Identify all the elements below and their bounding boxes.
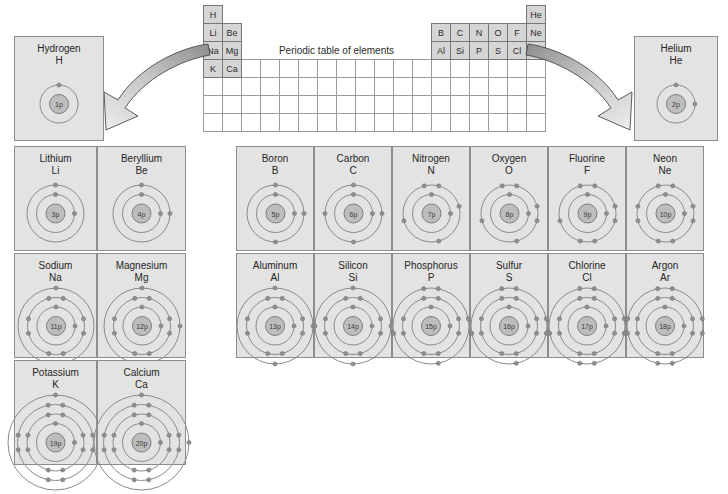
periodic-cell-empty[interactable] (242, 114, 261, 132)
periodic-cell-empty[interactable] (280, 114, 299, 132)
periodic-cell-empty[interactable] (356, 114, 375, 132)
periodic-cell-al[interactable]: Al (432, 42, 451, 60)
periodic-cell-empty[interactable] (451, 78, 470, 96)
element-card-lithium[interactable]: LithiumLi3p (14, 146, 97, 251)
periodic-cell-empty[interactable] (280, 60, 299, 78)
periodic-cell-empty[interactable] (261, 60, 280, 78)
electron (674, 82, 678, 86)
periodic-cell-empty[interactable] (489, 114, 508, 132)
periodic-cell-si[interactable]: Si (451, 42, 470, 60)
periodic-cell-empty[interactable] (451, 96, 470, 114)
element-card-magnesium[interactable]: MagnesiumMg12p (97, 253, 186, 358)
periodic-cell-be[interactable]: Be (223, 24, 242, 42)
periodic-cell-empty[interactable] (356, 96, 375, 114)
periodic-cell-empty[interactable] (242, 78, 261, 96)
periodic-cell-empty[interactable] (223, 114, 242, 132)
periodic-cell-s[interactable]: S (489, 42, 508, 60)
element-card-neon[interactable]: NeonNe10p (626, 146, 704, 251)
periodic-cell-c[interactable]: C (451, 24, 470, 42)
periodic-cell-empty[interactable] (261, 96, 280, 114)
periodic-cell-empty[interactable] (489, 96, 508, 114)
element-card-potassium[interactable]: PotassiumK19p (14, 360, 97, 465)
periodic-cell-b[interactable]: B (432, 24, 451, 42)
periodic-cell-empty[interactable] (337, 60, 356, 78)
periodic-cell-empty[interactable] (394, 60, 413, 78)
periodic-cell-empty[interactable] (451, 114, 470, 132)
periodic-cell-empty[interactable] (375, 96, 394, 114)
periodic-cell-empty[interactable] (280, 78, 299, 96)
element-card-calcium[interactable]: CalciumCa20p (97, 360, 186, 465)
periodic-cell-empty[interactable] (432, 96, 451, 114)
element-card-hydrogen[interactable]: HydrogenH1p (14, 36, 104, 141)
electron (177, 433, 181, 437)
periodic-cell-empty[interactable] (375, 114, 394, 132)
element-card-aluminum[interactable]: AluminumAl13p (236, 253, 314, 358)
element-card-silicon[interactable]: SiliconSi14p (314, 253, 392, 358)
periodic-cell-empty[interactable] (470, 96, 489, 114)
periodic-cell-empty[interactable] (318, 60, 337, 78)
periodic-cell-empty[interactable] (356, 78, 375, 96)
periodic-cell-empty[interactable] (470, 60, 489, 78)
element-card-chlorine[interactable]: ChlorineCl17p (548, 253, 626, 358)
periodic-cell-mg[interactable]: Mg (223, 42, 242, 60)
element-card-phosphorus[interactable]: PhosphorusP15p (392, 253, 470, 358)
periodic-cell-empty[interactable] (394, 114, 413, 132)
periodic-cell-empty[interactable] (299, 60, 318, 78)
periodic-cell-n[interactable]: N (470, 24, 489, 42)
electron (422, 184, 426, 188)
periodic-cell-empty[interactable] (413, 114, 432, 132)
periodic-cell-empty[interactable] (318, 96, 337, 114)
periodic-cell-empty[interactable] (413, 60, 432, 78)
periodic-cell-empty[interactable] (299, 96, 318, 114)
periodic-cell-empty[interactable] (413, 78, 432, 96)
periodic-cell-empty[interactable] (337, 96, 356, 114)
periodic-cell-empty[interactable] (223, 78, 242, 96)
periodic-cell-empty[interactable] (261, 114, 280, 132)
periodic-cell-empty[interactable] (261, 78, 280, 96)
periodic-cell-empty[interactable] (470, 114, 489, 132)
element-card-nitrogen[interactable]: NitrogenN7p (392, 146, 470, 251)
periodic-cell-empty[interactable] (432, 60, 451, 78)
periodic-cell-empty[interactable] (318, 114, 337, 132)
periodic-cell-empty[interactable] (356, 60, 375, 78)
periodic-cell-empty[interactable] (451, 60, 470, 78)
periodic-cell-empty[interactable] (318, 78, 337, 96)
element-card-sodium[interactable]: SodiumNa11p (14, 253, 97, 358)
electron (132, 413, 136, 417)
periodic-cell-empty[interactable] (432, 114, 451, 132)
periodic-cell-empty[interactable] (489, 60, 508, 78)
element-card-fluorine[interactable]: FluorineF9p (548, 146, 626, 251)
periodic-cell-empty[interactable] (375, 60, 394, 78)
element-card-beryllium[interactable]: BerylliumBe4p (97, 146, 186, 251)
periodic-cell-empty (318, 6, 337, 24)
periodic-cell-empty[interactable] (394, 96, 413, 114)
periodic-cell-empty[interactable] (394, 78, 413, 96)
periodic-cell-empty[interactable] (375, 78, 394, 96)
element-card-argon[interactable]: ArgonAr18p (626, 253, 704, 358)
electron (436, 184, 440, 188)
periodic-cell-h[interactable]: H (204, 6, 223, 24)
electron (139, 393, 143, 397)
element-card-helium[interactable]: HeliumHe2p (634, 36, 718, 141)
periodic-cell-ca[interactable]: Ca (223, 60, 242, 78)
periodic-cell-empty[interactable] (299, 114, 318, 132)
periodic-cell-empty[interactable] (242, 96, 261, 114)
periodic-cell-empty[interactable] (337, 114, 356, 132)
electron (663, 192, 667, 196)
periodic-cell-empty[interactable] (337, 78, 356, 96)
element-card-boron[interactable]: BoronB5p (236, 146, 314, 251)
element-card-sulfur[interactable]: SulfurS16p (470, 253, 548, 358)
periodic-cell-empty[interactable] (280, 96, 299, 114)
periodic-cell-empty[interactable] (432, 78, 451, 96)
periodic-cell-o[interactable]: O (489, 24, 508, 42)
element-card-carbon[interactable]: CarbonC6p (314, 146, 392, 251)
periodic-cell-empty[interactable] (489, 78, 508, 96)
periodic-cell-empty[interactable] (413, 96, 432, 114)
periodic-cell-empty[interactable] (223, 96, 242, 114)
periodic-cell-he[interactable]: He (527, 6, 546, 24)
periodic-cell-empty[interactable] (242, 60, 261, 78)
periodic-cell-empty[interactable] (299, 78, 318, 96)
periodic-cell-empty[interactable] (470, 78, 489, 96)
element-card-oxygen[interactable]: OxygenO8p (470, 146, 548, 251)
periodic-cell-p[interactable]: P (470, 42, 489, 60)
